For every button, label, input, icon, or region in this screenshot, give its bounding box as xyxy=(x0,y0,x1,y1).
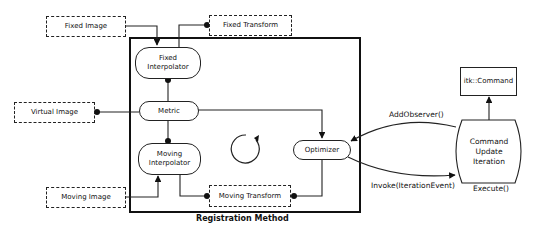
fixed-interpolator-line1: Fixed xyxy=(159,54,177,63)
optimizer-label: Optimizer xyxy=(305,146,339,155)
virtual-image-label: Virtual Image xyxy=(31,108,78,117)
moving-transform-label: Moving Transform xyxy=(219,192,281,201)
execute-label: Execute() xyxy=(473,184,509,193)
fixed-transform-box: Fixed Transform xyxy=(209,15,292,36)
itk-command-box: itk::Command xyxy=(460,67,517,96)
optimizer-node: Optimizer xyxy=(293,140,351,160)
itk-command-label: itk::Command xyxy=(464,77,513,86)
command-line2: Update xyxy=(475,147,502,157)
metric-node: Metric xyxy=(139,101,199,121)
virtual-image-box: Virtual Image xyxy=(14,102,95,123)
fixed-interpolator-node: Fixed Interpolator xyxy=(135,47,201,79)
fixed-interpolator-line2: Interpolator xyxy=(147,63,188,72)
command-line1: Command xyxy=(470,137,509,147)
metric-label: Metric xyxy=(158,107,180,116)
moving-image-label: Moving Image xyxy=(61,193,110,202)
fixed-image-box: Fixed Image xyxy=(46,16,126,37)
fixed-image-label: Fixed Image xyxy=(65,22,107,31)
registration-method-label: Registration Method xyxy=(196,214,289,223)
moving-image-box: Moving Image xyxy=(46,187,126,208)
moving-interpolator-node: Moving Interpolator xyxy=(138,143,201,175)
fixed-transform-label: Fixed Transform xyxy=(223,21,278,30)
moving-transform-box: Moving Transform xyxy=(209,185,291,207)
circular-arrow-icon xyxy=(231,135,259,163)
moving-interpolator-line2: Interpolator xyxy=(149,159,190,168)
command-line3: Iteration xyxy=(473,157,505,167)
invoke-label: Invoke(IterationEvent) xyxy=(371,181,455,190)
moving-interpolator-line1: Moving xyxy=(157,150,182,159)
command-update-iteration-node: Command Update Iteration xyxy=(458,128,520,176)
add-observer-label: AddObserver() xyxy=(389,110,444,119)
